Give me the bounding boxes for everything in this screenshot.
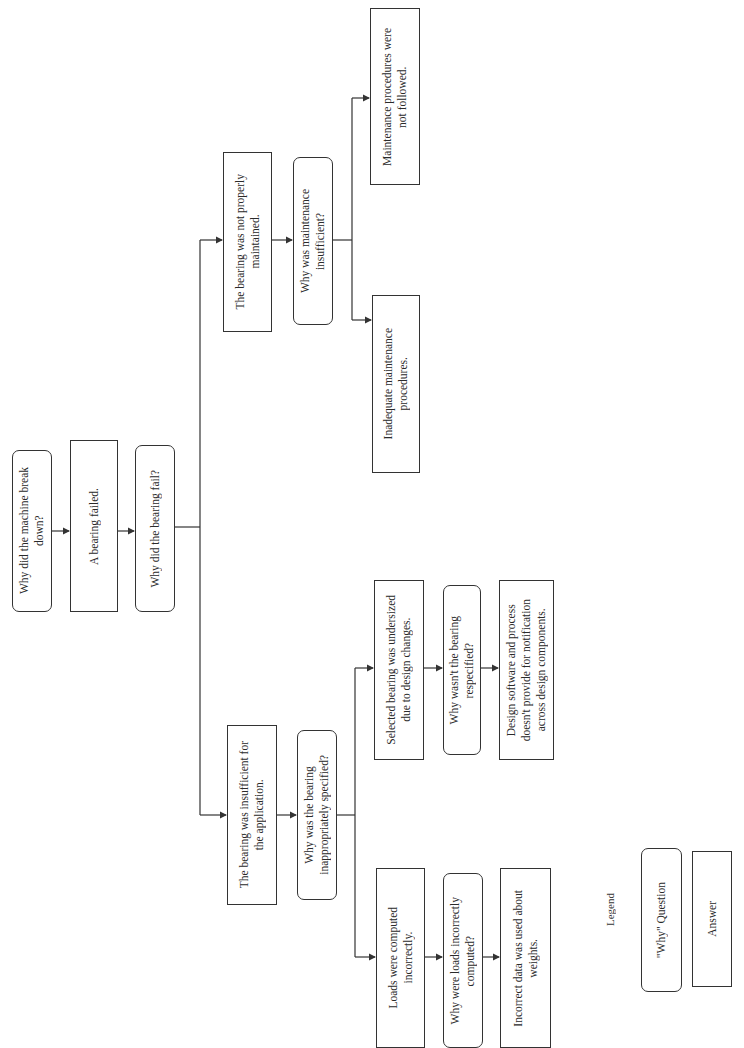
- node-design-software-notification: Design software and process doesn't prov…: [499, 580, 554, 760]
- node-label: Maintenance procedures were not followed…: [380, 28, 410, 166]
- node-not-properly-maintained: The bearing was not properly maintained.: [223, 152, 272, 332]
- node-label: Incorrect data was used about weights.: [511, 890, 541, 1027]
- node-label: Selected bearing was undersized due to d…: [384, 595, 414, 745]
- node-label: A bearing failed.: [87, 488, 102, 565]
- node-label: Why was maintenance insufficient?: [298, 189, 328, 293]
- node-why-not-respecified: Why wasn't the bearing respecified?: [443, 585, 481, 755]
- legend-question-swatch: "Why" Question: [641, 848, 682, 992]
- node-inadequate-procedures: Inadequate maintenance procedures.: [372, 295, 420, 473]
- node-why-machine-break-down: Why did the machine break down?: [12, 450, 52, 612]
- node-label: Why were loads incorrectly computed?: [448, 897, 478, 1024]
- node-why-bearing-fail: Why did the bearing fail?: [135, 445, 175, 612]
- node-bearing-failed: A bearing failed.: [70, 440, 118, 612]
- node-undersized-design-changes: Selected bearing was undersized due to d…: [374, 580, 424, 760]
- node-insufficient-for-application: The bearing was insufficient for the app…: [227, 725, 277, 905]
- legend-answer-swatch: Answer: [692, 851, 732, 987]
- node-label: Design software and process doesn't prov…: [504, 599, 549, 741]
- node-why-maintenance-insufficient: Why was maintenance insufficient?: [293, 157, 333, 325]
- node-label: The bearing was not properly maintained.: [233, 174, 263, 309]
- legend-title: Legend: [604, 893, 616, 926]
- node-label: Why wasn't the bearing respecified?: [447, 616, 477, 724]
- node-label: Inadequate maintenance procedures.: [381, 328, 411, 439]
- legend-question-label: "Why" Question: [654, 882, 669, 958]
- node-label: Why did the machine break down?: [17, 467, 47, 594]
- node-label: Why did the bearing fail?: [148, 470, 163, 588]
- node-label: Why was the bearing inappropriately spec…: [302, 755, 332, 875]
- node-label: Loads were computed incorrectly.: [386, 907, 416, 1009]
- node-incorrect-weight-data: Incorrect data was used about weights.: [500, 868, 551, 1048]
- node-label: The bearing was insufficient for the app…: [237, 741, 267, 888]
- node-loads-computed-incorrectly: Loads were computed incorrectly.: [376, 868, 425, 1048]
- node-why-loads-incorrect: Why were loads incorrectly computed?: [443, 873, 483, 1048]
- legend-answer-label: Answer: [705, 901, 720, 937]
- node-procedures-not-followed: Maintenance procedures were not followed…: [370, 8, 420, 185]
- node-why-inappropriately-specified: Why was the bearing inappropriately spec…: [297, 730, 337, 900]
